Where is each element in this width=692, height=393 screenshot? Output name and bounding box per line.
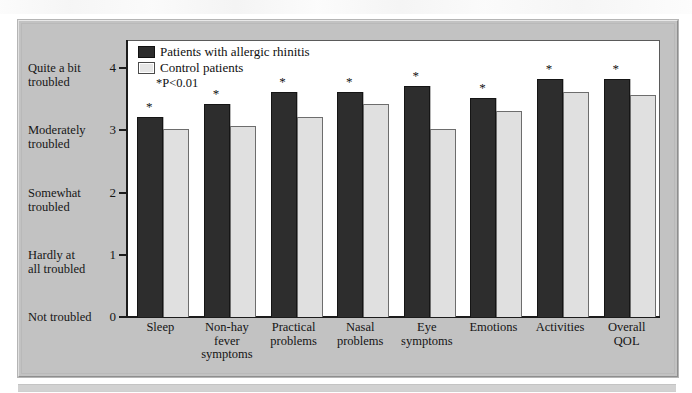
y-label-line1: Hardly at — [28, 248, 75, 262]
y-tick-label-0: 0 — [100, 310, 116, 323]
x-label-line2: QOL — [587, 335, 666, 349]
bar-control-1 — [230, 126, 256, 317]
significance-marker-2: * — [271, 77, 295, 87]
figure-root: 4Quite a bittroubled3Moderatelytroubled2… — [0, 0, 692, 393]
bar-control-4 — [430, 129, 456, 317]
x-label-line3: symptoms — [188, 348, 267, 362]
bar-control-0 — [163, 129, 189, 317]
x-label-7: OverallQOL — [587, 321, 666, 348]
y-tick-label-2: 2 — [100, 186, 116, 199]
bar-allergic-3 — [337, 92, 363, 317]
bar-allergic-6 — [537, 79, 563, 317]
significance-marker-1: * — [204, 89, 228, 99]
x-label-line2: symptoms — [388, 335, 467, 349]
y-axis-category-label: Hardly atall troubled — [28, 248, 100, 276]
bar-allergic-1 — [204, 104, 230, 317]
y-tick-label-4: 4 — [100, 61, 116, 74]
bar-control-6 — [563, 92, 589, 317]
bar-group: * — [204, 40, 254, 317]
significance-marker-0: * — [137, 102, 161, 112]
scan-artifact-strip — [0, 0, 692, 14]
y-label-line1: Somewhat — [28, 186, 81, 200]
bar-allergic-5 — [470, 98, 496, 317]
y-label-line2: troubled — [28, 75, 100, 89]
bar-group: * — [604, 40, 654, 317]
y-label-line1: Quite a bit — [28, 61, 81, 75]
bar-allergic-4 — [404, 86, 430, 317]
y-tick-label-1: 1 — [100, 248, 116, 261]
y-axis-category-label: Quite a bittroubled — [28, 61, 100, 89]
bar-group: * — [337, 40, 387, 317]
significance-marker-6: * — [537, 64, 561, 74]
x-axis-labels: SleepNon-hayfeversymptomsPracticalproble… — [127, 321, 660, 371]
y-label-line1: Moderately — [28, 123, 86, 137]
y-tick-3 — [119, 129, 126, 131]
y-label-line2: troubled — [28, 200, 100, 214]
bar-group: * — [537, 40, 587, 317]
bar-control-7 — [630, 95, 656, 317]
bar-control-3 — [363, 104, 389, 317]
x-label-line1: Overall — [587, 321, 666, 335]
y-label-line2: troubled — [28, 137, 100, 151]
figure-footer-bar — [18, 384, 676, 392]
bar-allergic-0 — [137, 117, 163, 317]
bar-control-5 — [496, 111, 522, 317]
y-axis-category-label: Moderatelytroubled — [28, 123, 100, 151]
bar-group: * — [404, 40, 454, 317]
y-tick-4 — [119, 67, 126, 69]
bar-group: * — [137, 40, 187, 317]
significance-marker-3: * — [337, 77, 361, 87]
bar-control-2 — [297, 117, 323, 317]
bar-group: * — [271, 40, 321, 317]
significance-marker-7: * — [604, 64, 628, 74]
y-tick-label-3: 3 — [100, 123, 116, 136]
y-tick-1 — [119, 254, 126, 256]
y-tick-2 — [119, 192, 126, 194]
y-label-line1: Not troubled — [28, 310, 92, 324]
bar-allergic-2 — [271, 92, 297, 317]
significance-marker-5: * — [470, 83, 494, 93]
significance-marker-4: * — [404, 71, 428, 81]
y-axis-category-label: Somewhattroubled — [28, 186, 100, 214]
y-axis-category-label: Not troubled — [28, 310, 100, 324]
bar-series-container: ******** — [127, 40, 660, 317]
y-tick-0 — [119, 316, 126, 318]
y-label-line2: all troubled — [28, 262, 100, 276]
bar-allergic-7 — [604, 79, 630, 317]
bar-group: * — [470, 40, 520, 317]
